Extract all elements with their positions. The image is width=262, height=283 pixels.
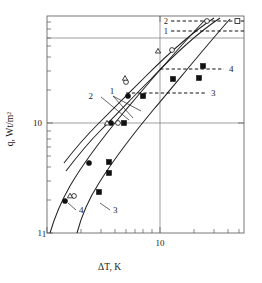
legend-marker-open-square	[235, 19, 240, 24]
bottom-curve-label-4: 4	[68, 203, 84, 215]
legend-marker-open-circle	[205, 19, 210, 24]
plot-frame	[47, 16, 244, 233]
curve-label-right-4: 4	[229, 64, 234, 74]
curve-label-left-1: 1	[110, 86, 115, 96]
x-tick-label-1: 1	[42, 229, 47, 239]
x-axis-ticks	[47, 16, 239, 233]
y-axis-title: q, Wt/m²	[5, 100, 15, 158]
legend-row-1: 1	[164, 26, 244, 36]
y-axis-title-text: q, Wt/m²	[5, 112, 15, 147]
curve-label-right-3: 3	[211, 88, 216, 98]
y-tick-label-10: 10	[33, 118, 43, 128]
legend-label-2: 2	[164, 16, 168, 26]
curve-3	[77, 19, 230, 233]
leader-lines-1-2: 2 1	[89, 86, 142, 120]
curve-label-bottom-4: 4	[79, 205, 84, 215]
legend-label-1: 1	[164, 26, 168, 36]
curve-label-bottom-3: 3	[113, 205, 118, 215]
curve-label-left-2: 2	[89, 91, 94, 101]
curve-4	[50, 19, 206, 233]
log-log-chart: 1 10 1 10 2 1 4 3	[0, 0, 262, 283]
markers-filled-square	[96, 63, 205, 194]
bottom-curve-label-3: 3	[100, 203, 118, 215]
y-tick-label-1: 1	[38, 228, 43, 238]
x-tick-label-10: 10	[156, 238, 166, 248]
y-axis-ticks	[47, 22, 244, 233]
figure-container: 1 10 1 10 2 1 4 3	[0, 0, 262, 283]
reference-line-4: 4	[160, 64, 234, 74]
x-axis-title-text: ΔT, K	[98, 262, 121, 272]
x-axis-title: ΔT, K	[98, 262, 121, 272]
